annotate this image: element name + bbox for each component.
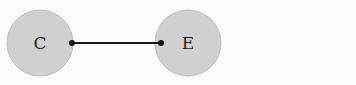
edge-c-e [69,40,164,46]
edge-end-dot-icon [158,40,164,46]
node-e: E [155,10,221,76]
node-c-label: C [33,33,46,53]
node-c: C [7,10,73,76]
edge-start-dot-icon [69,40,75,46]
diagram-canvas: C E [0,0,356,85]
node-e-label: E [182,33,194,53]
